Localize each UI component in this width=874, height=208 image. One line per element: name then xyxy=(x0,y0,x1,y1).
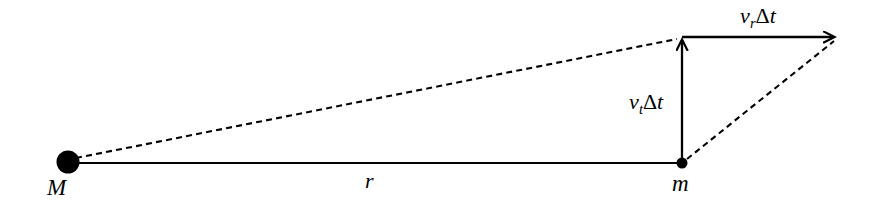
dashed-new-radius-line xyxy=(76,39,677,158)
tangential-displacement-label: vtΔt xyxy=(629,91,663,116)
delta-symbol: Δ xyxy=(756,3,770,28)
orbiting-mass-symbol: m xyxy=(672,171,689,196)
central-mass-dot xyxy=(57,151,80,174)
radial-velocity-symbol: v xyxy=(740,3,750,28)
dashed-resultant-line xyxy=(687,41,834,159)
radial-displacement-label: vrΔt xyxy=(740,5,776,30)
central-mass-symbol: M xyxy=(47,175,66,200)
diagram-canvas xyxy=(0,0,874,208)
separation-symbol: r xyxy=(365,168,374,193)
delta-symbol: Δ xyxy=(643,89,657,114)
time-symbol: t xyxy=(657,89,663,114)
tangential-velocity-symbol: v xyxy=(629,89,639,114)
orbiting-mass-label: m xyxy=(672,172,689,195)
separation-label: r xyxy=(365,170,374,192)
orbital-vector-diagram: M m r vtΔt vrΔt xyxy=(0,0,874,208)
central-mass-label: M xyxy=(47,176,66,199)
time-symbol: t xyxy=(770,3,776,28)
orbiting-mass-dot xyxy=(677,158,688,169)
